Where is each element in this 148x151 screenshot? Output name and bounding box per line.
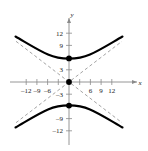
x-axis-label: x bbox=[137, 79, 142, 87]
plot-canvas: x y –12 –9 –6 6 9 12 12 9 3 –3 –9 –12 bbox=[0, 0, 148, 151]
y-tick-label-9: 9 bbox=[60, 42, 64, 50]
upper-vertex-point bbox=[66, 56, 72, 62]
x-tick-label-6: 6 bbox=[89, 87, 93, 95]
x-tick-label--6: –6 bbox=[43, 87, 52, 95]
y-tick-label--9: –9 bbox=[55, 115, 64, 123]
x-tick-label--9: –9 bbox=[32, 87, 41, 95]
lower-vertex-point bbox=[66, 103, 72, 109]
x-tick-labels-group: –12 –9 –6 6 9 12 bbox=[20, 87, 116, 95]
y-tick-labels-group: 12 9 3 –3 –9 –12 bbox=[52, 30, 64, 136]
y-tick-label-12: 12 bbox=[56, 30, 64, 38]
x-tick-label-9: 9 bbox=[99, 87, 103, 95]
x-tick-label--12: –12 bbox=[20, 87, 32, 95]
hyperbola-graph-figure: x y –12 –9 –6 6 9 12 12 9 3 –3 –9 –12 bbox=[0, 0, 148, 151]
y-tick-label-3: 3 bbox=[60, 66, 64, 74]
x-tick-label-12: 12 bbox=[108, 87, 116, 95]
x-axis-arrowhead bbox=[132, 80, 137, 84]
y-axis-label: y bbox=[69, 11, 74, 19]
origin-point bbox=[66, 79, 72, 85]
y-tick-label--3: –3 bbox=[55, 91, 64, 99]
y-tick-label--12: –12 bbox=[52, 127, 64, 135]
